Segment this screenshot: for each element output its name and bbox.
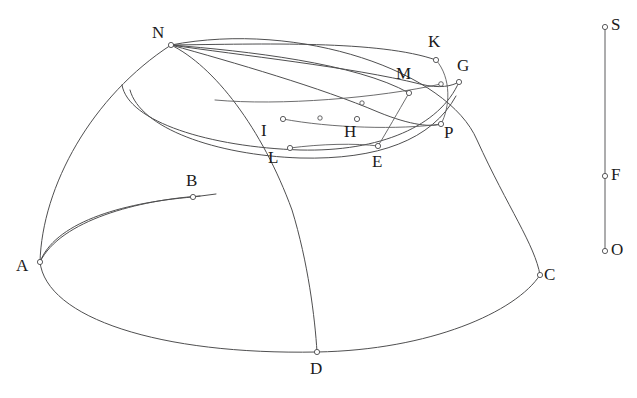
dome-outline-right-arc	[171, 39, 540, 275]
point-dot-N	[168, 42, 173, 47]
point-label-F: F	[611, 166, 620, 183]
great-arc-N-to-P	[171, 45, 441, 125]
point-dot-unlabeled-mid-1	[318, 116, 322, 120]
line-B-extension	[193, 194, 216, 197]
point-dot-unlabeled-right	[439, 82, 444, 87]
horizon-front-arc	[40, 262, 540, 352]
point-label-C: C	[544, 266, 555, 283]
point-label-I: I	[261, 122, 267, 139]
point-label-K: K	[428, 33, 440, 50]
point-label-H: H	[344, 123, 356, 140]
point-label-A: A	[16, 257, 28, 274]
point-dot-B	[190, 194, 195, 199]
point-dot-S	[602, 24, 607, 29]
point-label-L: L	[268, 149, 278, 166]
arc-A-to-B	[40, 197, 193, 262]
great-arc-N-to-K	[171, 44, 436, 60]
chord-L-to-E-arc	[290, 144, 378, 148]
arc-M-to-E	[378, 93, 409, 146]
point-label-E: E	[372, 153, 382, 170]
point-label-G: G	[457, 57, 469, 74]
arc-K-to-P	[436, 60, 448, 124]
point-dot-G	[456, 79, 461, 84]
point-dot-A	[37, 259, 42, 264]
point-dot-M	[406, 90, 411, 95]
point-dot-I	[280, 116, 285, 121]
point-label-O: O	[611, 241, 623, 258]
point-dot-K	[433, 57, 438, 62]
point-label-B: B	[186, 172, 197, 189]
great-arc-N-to-M	[171, 45, 409, 93]
point-dot-E	[375, 143, 380, 148]
point-label-S: S	[611, 16, 620, 33]
point-dot-L	[287, 145, 292, 150]
point-dot-unlabeled-mid-2	[360, 101, 364, 105]
dome-outline-left-arc	[40, 45, 171, 262]
arc-I-to-P	[283, 119, 441, 127]
point-label-M: M	[396, 65, 411, 82]
point-label-P: P	[444, 124, 453, 141]
horizon-back-arc	[40, 196, 200, 262]
point-dot-H	[354, 116, 359, 121]
point-dot-F	[602, 173, 607, 178]
point-dot-P	[438, 121, 443, 126]
point-label-D: D	[310, 360, 322, 377]
geometry-figure: N K G M I H P L E B A C D S F O	[0, 0, 637, 398]
point-label-N: N	[152, 24, 164, 41]
point-dot-O	[602, 248, 607, 253]
point-dot-D	[314, 349, 319, 354]
point-dot-C	[537, 272, 542, 277]
diagram-canvas	[0, 0, 637, 398]
